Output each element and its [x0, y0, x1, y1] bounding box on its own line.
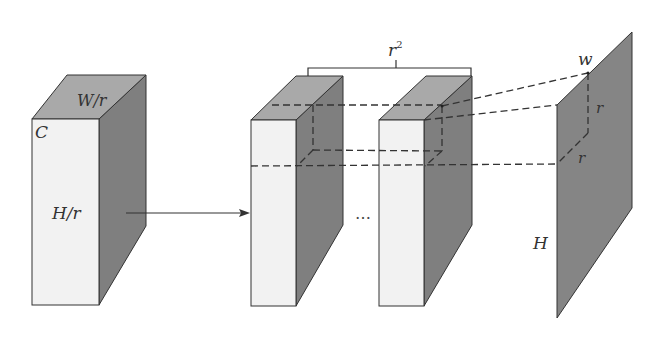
output-width-label: w — [578, 49, 593, 69]
channel-count-label: r2 — [388, 39, 403, 60]
input-channel-label: C — [35, 122, 48, 142]
ellipsis: … — [355, 204, 371, 223]
channel-count-exponent: 2 — [396, 39, 402, 50]
patch-height-label: r — [596, 99, 604, 117]
feature-map-block-1 — [251, 76, 343, 306]
input-width-label: W/r — [77, 91, 108, 110]
bracket-line — [308, 68, 471, 76]
output-plane-face — [557, 32, 632, 318]
patch-width-label: r — [578, 149, 586, 167]
input-block: C W/r H/r — [32, 75, 146, 305]
channel-count-bracket: r2 — [308, 39, 471, 76]
corner-dot-block2 — [441, 105, 444, 108]
corner-dot-plane — [587, 72, 590, 75]
block2-front-face — [379, 120, 424, 306]
block1-front-face — [251, 120, 296, 306]
feature-map-block-2 — [379, 76, 472, 306]
input-height-label: H/r — [51, 203, 82, 223]
output-height-label: H — [532, 233, 549, 253]
pixel-shuffle-diagram: C W/r H/r … r2 w H r r — [0, 0, 662, 338]
